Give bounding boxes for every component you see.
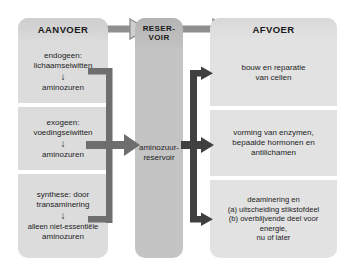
arrow-right-split-trunk [181,67,214,227]
right-column-header: AFVOER [210,18,337,40]
right-header-label: AFVOER [253,24,295,35]
middle-column-header: RESER- VOIR [135,18,183,48]
middle-header-line2: VOIR [148,33,169,42]
diagram-canvas: AANVOER endogeen: lichaamseiwitten ↓ ami… [0,0,355,275]
middle-header-line1: RESER- [143,24,176,33]
left-header-label: AANVOER [38,24,88,35]
left-column-header: AANVOER [18,18,108,40]
arrow-left-merge-trunk [86,68,140,223]
